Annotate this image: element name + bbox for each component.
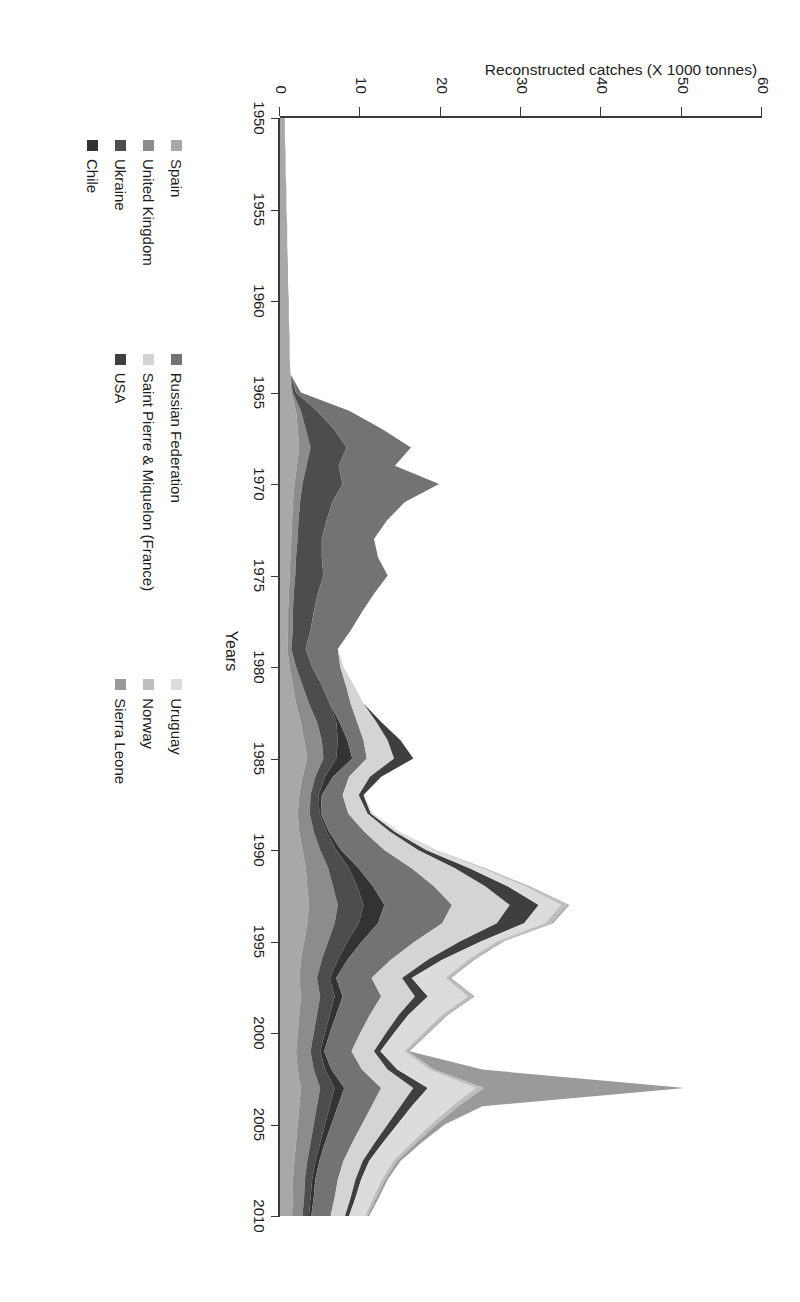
legend-swatch-icon bbox=[115, 354, 126, 365]
legend-item[interactable]: United Kingdom bbox=[141, 140, 156, 266]
legend-label: Chile bbox=[85, 159, 100, 193]
legend-item[interactable]: USA bbox=[113, 354, 128, 591]
y-axis-tick bbox=[359, 107, 360, 116]
x-axis-tick bbox=[271, 118, 280, 119]
x-axis-tick-label: 1950 bbox=[251, 90, 268, 146]
legend-label: Uruguay bbox=[169, 698, 184, 755]
legend-label: Spain bbox=[169, 159, 184, 197]
legend-item[interactable]: Spain bbox=[169, 140, 184, 266]
x-axis-tick-label: 1970 bbox=[251, 456, 268, 512]
y-axis-tick-label: 0 bbox=[273, 30, 290, 94]
x-axis-tick-label: 1965 bbox=[251, 365, 268, 421]
x-axis-tick bbox=[271, 850, 280, 851]
x-axis-tick bbox=[271, 942, 280, 943]
x-axis-tick bbox=[271, 1125, 280, 1126]
legend-swatch-icon bbox=[171, 140, 182, 151]
legend-label: Ukraine bbox=[113, 159, 128, 211]
legend-item[interactable]: Saint Pierre & Miquelon (France) bbox=[141, 354, 156, 591]
x-axis-tick bbox=[271, 393, 280, 394]
legend-column-1: SpainUnited KingdomUkraineChile bbox=[85, 140, 184, 266]
y-axis-tick bbox=[440, 107, 441, 116]
legend-swatch-icon bbox=[171, 354, 182, 365]
legend-label: Russian Federation bbox=[169, 373, 184, 503]
x-axis-title: Years bbox=[222, 0, 240, 1302]
y-axis-title: Reconstructed catches (X 1000 tonnes) bbox=[411, 61, 800, 79]
x-axis-tick bbox=[271, 1216, 280, 1217]
x-axis-tick bbox=[271, 301, 280, 302]
plot-area bbox=[280, 118, 762, 1216]
x-axis-tick-label: 1990 bbox=[251, 822, 268, 878]
x-axis-tick-label: 1995 bbox=[251, 914, 268, 970]
legend-swatch-icon bbox=[87, 140, 98, 151]
y-axis-tick bbox=[600, 107, 601, 116]
legend-label: Sierra Leone bbox=[113, 698, 128, 784]
legend-item[interactable]: Ukraine bbox=[113, 140, 128, 266]
y-axis-tick bbox=[520, 107, 521, 116]
y-axis-tick bbox=[761, 107, 762, 116]
chart-legend: SpainUnited KingdomUkraineChileRussian F… bbox=[85, 140, 184, 784]
x-axis-tick-label: 2010 bbox=[251, 1188, 268, 1244]
x-axis-tick-label: 1980 bbox=[251, 639, 268, 695]
legend-column-3: UruguayNorwaySierra Leone bbox=[113, 679, 184, 784]
x-axis-tick bbox=[271, 484, 280, 485]
legend-label: Saint Pierre & Miquelon (France) bbox=[141, 373, 156, 591]
legend-swatch-icon bbox=[143, 679, 154, 690]
y-axis-tick bbox=[681, 107, 682, 116]
legend-item[interactable]: Sierra Leone bbox=[113, 679, 128, 784]
x-axis-tick bbox=[271, 210, 280, 211]
x-axis-tick bbox=[271, 759, 280, 760]
legend-swatch-icon bbox=[171, 679, 182, 690]
x-axis-tick-label: 1975 bbox=[251, 548, 268, 604]
stacked-area-chart-figure: 0102030405060 Reconstructed catches (X 1… bbox=[0, 0, 800, 1302]
x-axis-tick-label: 1960 bbox=[251, 273, 268, 329]
legend-column-2: Russian FederationSaint Pierre & Miquelo… bbox=[113, 354, 184, 591]
legend-swatch-icon bbox=[143, 354, 154, 365]
x-axis-tick-label: 1955 bbox=[251, 182, 268, 238]
x-axis-tick bbox=[271, 667, 280, 668]
x-axis-tick-label: 1985 bbox=[251, 731, 268, 787]
legend-label: United Kingdom bbox=[141, 159, 156, 266]
legend-item[interactable]: Russian Federation bbox=[169, 354, 184, 591]
legend-item[interactable]: Chile bbox=[85, 140, 100, 266]
legend-swatch-icon bbox=[115, 140, 126, 151]
legend-label: USA bbox=[113, 373, 128, 404]
area-series-svg bbox=[280, 118, 762, 1216]
y-axis-tick bbox=[279, 107, 280, 116]
legend-swatch-icon bbox=[115, 679, 126, 690]
legend-item[interactable]: Norway bbox=[141, 679, 156, 784]
x-axis-tick bbox=[271, 1033, 280, 1034]
y-axis-tick-label: 10 bbox=[353, 30, 370, 94]
legend-item[interactable]: Uruguay bbox=[169, 679, 184, 784]
x-axis-tick bbox=[271, 576, 280, 577]
rotated-figure-container: 0102030405060 Reconstructed catches (X 1… bbox=[0, 0, 800, 1302]
x-axis-tick-label: 2005 bbox=[251, 1097, 268, 1153]
x-axis-tick-label: 2000 bbox=[251, 1005, 268, 1061]
legend-label: Norway bbox=[141, 698, 156, 749]
legend-swatch-icon bbox=[143, 140, 154, 151]
